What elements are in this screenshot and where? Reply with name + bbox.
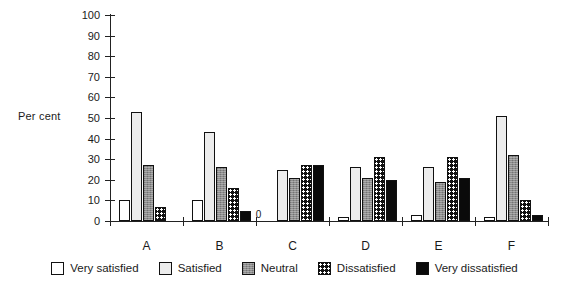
bar-F-very-dissatisfied <box>532 215 544 221</box>
bar-C-dissatisfied <box>301 165 313 221</box>
bar-F-satisfied <box>496 116 508 221</box>
bar-A-dissatisfied <box>155 207 167 221</box>
bar-B-very-dissatisfied <box>240 211 252 221</box>
legend-item-very-satisfied[interactable]: Very satisfied <box>51 262 138 275</box>
y-tick-label-40: 40 <box>88 133 100 144</box>
legend-item-satisfied[interactable]: Satisfied <box>159 262 222 275</box>
bar-C-satisfied <box>277 170 289 222</box>
y-tick-60: 60 <box>105 97 115 98</box>
bar-B-very-satisfied <box>192 200 204 221</box>
bar-E-very-dissatisfied <box>459 178 471 221</box>
y-tick-label-0: 0 <box>94 216 100 227</box>
x-tick-0 <box>110 217 111 226</box>
y-tick-label-100: 100 <box>82 10 100 21</box>
y-tick-label-90: 90 <box>88 30 100 41</box>
bar-F-very-satisfied <box>484 217 496 221</box>
group-label-F: F <box>508 240 515 252</box>
bar-E-dissatisfied <box>447 157 459 221</box>
bar-D-satisfied <box>350 167 362 221</box>
legend-swatch-dissatisfied <box>318 262 331 275</box>
bar-A-satisfied <box>131 112 143 221</box>
legend-swatch-satisfied <box>159 262 172 275</box>
x-tick-1 <box>183 217 184 226</box>
group-label-A: A <box>142 240 150 252</box>
y-tick-10: 10 <box>105 200 115 201</box>
y-axis-title: Per cent <box>18 110 61 122</box>
y-tick-label-70: 70 <box>88 71 100 82</box>
y-tick-70: 70 <box>105 77 115 78</box>
bar-B-dissatisfied <box>228 188 240 221</box>
group-label-B: B <box>215 240 223 252</box>
x-tick-4 <box>402 217 403 226</box>
legend-item-dissatisfied[interactable]: Dissatisfied <box>318 262 396 275</box>
x-tick-3 <box>329 217 330 226</box>
bar-E-very-satisfied <box>411 215 423 221</box>
legend-item-neutral[interactable]: Neutral <box>242 262 298 275</box>
bar-D-very-satisfied <box>338 217 350 221</box>
bar-C-neutral <box>289 178 301 221</box>
y-tick-label-10: 10 <box>88 195 100 206</box>
bar-D-dissatisfied <box>374 157 386 221</box>
y-tick-40: 40 <box>105 139 115 140</box>
group-label-C: C <box>288 240 297 252</box>
y-tick-90: 90 <box>105 36 115 37</box>
legend-swatch-very-satisfied <box>51 262 64 275</box>
y-tick-80: 80 <box>105 56 115 57</box>
y-tick-label-50: 50 <box>88 113 100 124</box>
group-label-D: D <box>361 240 370 252</box>
zero-label-C-very-satisfied: 0 <box>256 210 262 220</box>
group-label-E: E <box>434 240 442 252</box>
bar-D-neutral <box>362 178 374 221</box>
legend-swatch-very-dissatisfied <box>416 262 429 275</box>
y-tick-30: 30 <box>105 159 115 160</box>
chart-legend: Very satisfiedSatisfiedNeutralDissatisfi… <box>0 262 569 275</box>
plot-area: 0102030405060708090100 0 ABCDEF <box>110 14 548 222</box>
y-tick-label-20: 20 <box>88 174 100 185</box>
y-tick-50: 50 <box>105 118 115 119</box>
bar-B-satisfied <box>204 132 216 221</box>
y-tick-20: 20 <box>105 180 115 181</box>
legend-label-dissatisfied: Dissatisfied <box>337 263 396 275</box>
bar-E-satisfied <box>423 167 435 221</box>
legend-label-very-dissatisfied: Very dissatisfied <box>435 263 518 275</box>
legend-label-neutral: Neutral <box>261 263 298 275</box>
bar-F-dissatisfied <box>520 200 532 221</box>
bar-F-neutral <box>508 155 520 221</box>
x-tick-6 <box>548 217 549 226</box>
legend-label-satisfied: Satisfied <box>178 263 222 275</box>
bar-C-very-dissatisfied <box>313 165 325 221</box>
y-tick-label-30: 30 <box>88 154 100 165</box>
bar-A-neutral <box>143 165 155 221</box>
legend-item-very-dissatisfied[interactable]: Very dissatisfied <box>416 262 518 275</box>
y-tick-100: 100 <box>105 15 115 16</box>
x-tick-5 <box>475 217 476 226</box>
bar-chart: Per cent 0102030405060708090100 0 ABCDEF… <box>0 0 569 300</box>
bar-E-neutral <box>435 182 447 221</box>
legend-label-very-satisfied: Very satisfied <box>70 263 138 275</box>
y-tick-label-60: 60 <box>88 92 100 103</box>
bar-A-very-satisfied <box>119 200 131 221</box>
y-tick-label-80: 80 <box>88 51 100 62</box>
bar-B-neutral <box>216 167 228 221</box>
bar-D-very-dissatisfied <box>386 180 398 221</box>
legend-swatch-neutral <box>242 262 255 275</box>
